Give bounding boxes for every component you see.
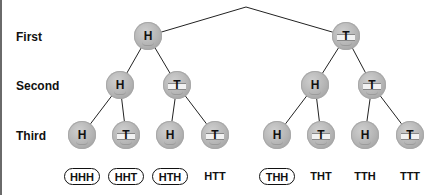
coin-face-label: H bbox=[311, 78, 320, 92]
coin-face-label: H bbox=[361, 128, 370, 142]
coin-tails-icon: T bbox=[163, 71, 191, 99]
outcome-hht: HHT bbox=[108, 168, 144, 185]
outcome-tht: THT bbox=[303, 168, 339, 185]
outcome-htt: HTT bbox=[197, 168, 233, 185]
coin-face-label: T bbox=[406, 128, 413, 142]
coin-face-label: T bbox=[211, 128, 218, 142]
coin-heads-icon: H bbox=[301, 71, 329, 99]
outcome-tth: TTH bbox=[347, 168, 383, 185]
coin-face-label: T bbox=[342, 29, 349, 43]
coin-heads-icon: H bbox=[263, 121, 291, 149]
coin-tails-icon: T bbox=[112, 121, 140, 149]
coin-heads-icon: H bbox=[156, 121, 184, 149]
coin-tails-icon: T bbox=[332, 22, 360, 50]
coin-face-label: H bbox=[116, 78, 125, 92]
coin-heads-icon: H bbox=[68, 121, 96, 149]
coin-face-label: H bbox=[78, 128, 87, 142]
row-label-third: Third bbox=[16, 129, 46, 143]
outcome-hhh: HHH bbox=[64, 168, 100, 185]
branch-line bbox=[148, 7, 246, 36]
coin-tails-icon: T bbox=[201, 121, 229, 149]
coin-tails-icon: T bbox=[396, 121, 424, 149]
branch-line bbox=[246, 7, 346, 36]
outcome-hth: HTH bbox=[152, 168, 188, 185]
coin-face-label: T bbox=[317, 128, 324, 142]
coin-face-label: H bbox=[273, 128, 282, 142]
coin-heads-icon: H bbox=[351, 121, 379, 149]
coin-tails-icon: T bbox=[307, 121, 335, 149]
coin-heads-icon: H bbox=[106, 71, 134, 99]
coin-tails-icon: T bbox=[358, 71, 386, 99]
coin-face-label: T bbox=[368, 78, 375, 92]
coin-heads-icon: H bbox=[134, 22, 162, 50]
coin-face-label: H bbox=[166, 128, 175, 142]
coin-face-label: T bbox=[173, 78, 180, 92]
row-label-first: First bbox=[16, 30, 42, 44]
outcome-thh: THH bbox=[259, 168, 295, 185]
coin-face-label: T bbox=[122, 128, 129, 142]
coin-face-label: H bbox=[144, 29, 153, 43]
row-label-second: Second bbox=[16, 79, 59, 93]
outcome-ttt: TTT bbox=[392, 168, 428, 185]
